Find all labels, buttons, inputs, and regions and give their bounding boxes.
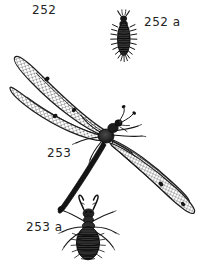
figure-label-253: 253 (47, 147, 71, 160)
figure-label-252a: 252 a (144, 16, 181, 29)
figure-252a-larva (111, 9, 137, 61)
illustration-plate: 252 252 a 253 253 a (0, 0, 204, 261)
figure-253-adult-antlion (10, 56, 195, 213)
wing-right-hind (110, 143, 195, 214)
figure-label-252: 252 (32, 4, 56, 17)
figure-label-253a: 253 a (26, 221, 63, 234)
antennae (120, 108, 133, 122)
